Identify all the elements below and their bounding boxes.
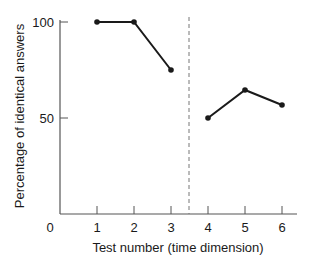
data-point bbox=[279, 102, 285, 108]
data-point bbox=[205, 115, 211, 121]
x-tick-label-3: 3 bbox=[167, 220, 174, 235]
series-line-tests-4-6 bbox=[208, 90, 282, 118]
data-point bbox=[131, 19, 137, 25]
x-tick-label-0: 0 bbox=[46, 220, 53, 235]
data-point bbox=[168, 67, 174, 73]
x-tick-label-1: 1 bbox=[93, 220, 100, 235]
y-tick-label-50: 50 bbox=[40, 111, 54, 126]
x-tick-label-2: 2 bbox=[130, 220, 137, 235]
x-tick-label-4: 4 bbox=[204, 220, 211, 235]
series-line-tests-1-3 bbox=[97, 22, 171, 70]
line-chart: 100 50 0 1 2 3 4 5 6 Test number (time d… bbox=[0, 0, 313, 263]
y-axis-label: Percentage of identical answers bbox=[12, 23, 27, 208]
data-point bbox=[94, 19, 100, 25]
x-axis-label: Test number (time dimension) bbox=[92, 240, 263, 255]
data-point bbox=[242, 87, 248, 93]
x-tick-label-6: 6 bbox=[278, 220, 285, 235]
x-tick-label-5: 5 bbox=[241, 220, 248, 235]
y-tick-label-100: 100 bbox=[32, 15, 54, 30]
